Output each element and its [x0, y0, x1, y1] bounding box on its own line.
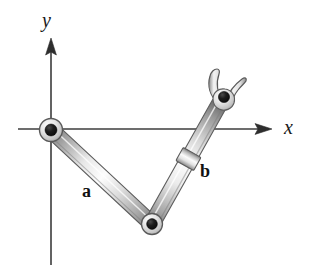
link-b	[141, 98, 229, 233]
link-a-label: a	[82, 182, 91, 200]
x-axis-label: x	[284, 117, 293, 137]
base-pivot-pin	[45, 124, 57, 136]
link-a-shadow-streak	[46, 132, 151, 230]
y-axis-label: y	[42, 10, 51, 30]
link-a	[43, 121, 161, 233]
elbow-pivot-pin	[147, 219, 158, 230]
elbow-pivot	[142, 214, 163, 235]
gripper	[209, 69, 246, 110]
robot-arm-figure: y x a b	[0, 0, 310, 273]
link-a-highlight	[51, 126, 157, 225]
link-b-label: b	[200, 162, 210, 180]
link-a-body	[43, 121, 161, 233]
gripper-pivot-pin	[218, 91, 229, 102]
base-pivot	[40, 119, 63, 142]
figure-canvas	[0, 0, 310, 273]
